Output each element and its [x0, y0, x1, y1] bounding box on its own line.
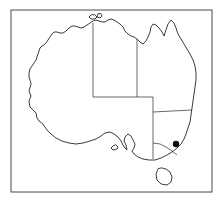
australia-map-svg — [0, 0, 222, 199]
melville-island-outline — [89, 15, 97, 19]
map-figure — [0, 0, 222, 199]
location-marker-dot[interactable] — [173, 141, 179, 147]
